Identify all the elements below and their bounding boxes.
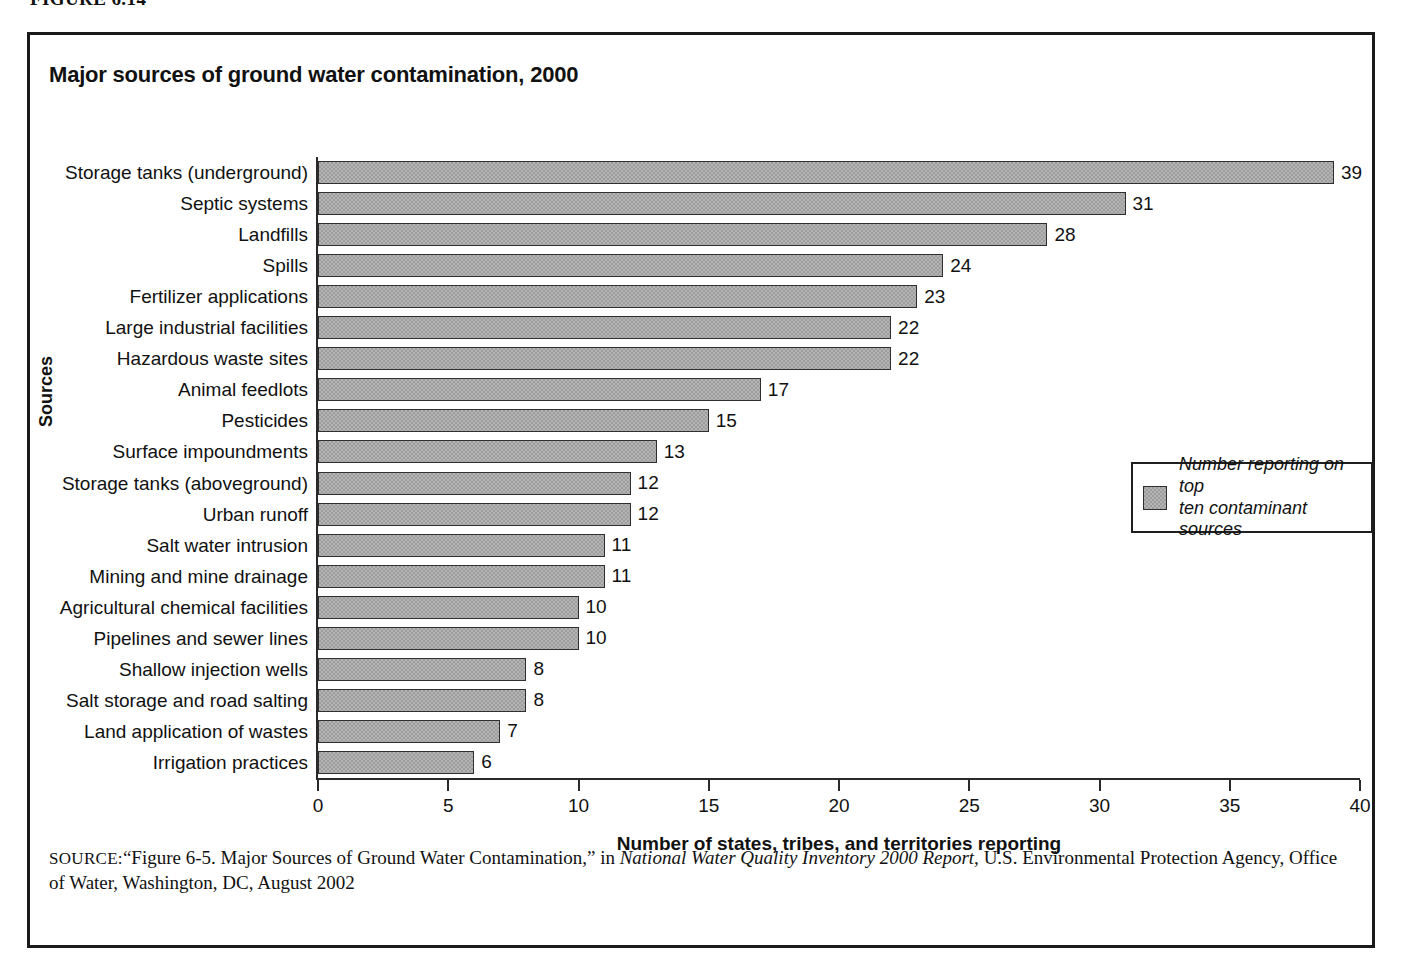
category-label: Large industrial facilities xyxy=(105,312,308,343)
bar-value-label: 10 xyxy=(586,627,607,649)
x-axis-tick xyxy=(447,780,449,791)
category-label: Mining and mine drainage xyxy=(89,561,308,592)
bar-value-label: 6 xyxy=(481,751,492,773)
legend-swatch-icon xyxy=(1143,486,1167,510)
bar-value-label: 10 xyxy=(586,596,607,618)
bar xyxy=(318,378,761,401)
category-label: Agricultural chemical facilities xyxy=(60,592,308,623)
bar xyxy=(318,720,500,743)
bar xyxy=(318,658,526,681)
bar xyxy=(318,440,657,463)
bar xyxy=(318,596,579,619)
bar xyxy=(318,565,605,588)
legend-label-line1: Number reporting on top xyxy=(1179,454,1361,497)
bar-value-label: 8 xyxy=(533,689,544,711)
x-axis-tick-label: 35 xyxy=(1219,795,1240,817)
x-axis-tick-label: 25 xyxy=(959,795,980,817)
legend-label: Number reporting on top ten contaminant … xyxy=(1179,454,1361,540)
x-axis-tick-label: 0 xyxy=(313,795,324,817)
bar xyxy=(318,689,526,712)
bar-row: 7 xyxy=(318,716,518,747)
x-axis-tick-label: 15 xyxy=(698,795,719,817)
bar-row: 22 xyxy=(318,312,919,343)
bar xyxy=(318,316,891,339)
bar xyxy=(318,627,579,650)
x-axis-tick xyxy=(1099,780,1101,791)
bar-row: 8 xyxy=(318,685,544,716)
bar-row: 13 xyxy=(318,436,685,467)
bar-row: 28 xyxy=(318,219,1076,250)
bar-value-label: 31 xyxy=(1133,193,1154,215)
bar-row: 11 xyxy=(318,561,631,592)
x-axis-tick-label: 40 xyxy=(1349,795,1370,817)
category-label: Land application of wastes xyxy=(84,716,308,747)
bar xyxy=(318,503,631,526)
bar-value-label: 8 xyxy=(533,658,544,680)
bar-value-label: 28 xyxy=(1054,224,1075,246)
source-note: SOURCE:“Figure 6-5. Major Sources of Gro… xyxy=(49,845,1354,896)
bar-value-label: 12 xyxy=(638,472,659,494)
bar-value-label: 22 xyxy=(898,317,919,339)
bar xyxy=(318,192,1126,215)
category-label: Urban runoff xyxy=(203,499,308,530)
bar-row: 10 xyxy=(318,592,607,623)
bar-value-label: 39 xyxy=(1341,162,1362,184)
category-label: Storage tanks (underground) xyxy=(65,157,308,188)
bar xyxy=(318,751,474,774)
x-axis-tick-label: 30 xyxy=(1089,795,1110,817)
x-axis-tick xyxy=(968,780,970,791)
bar-value-label: 12 xyxy=(638,503,659,525)
bar-row: 10 xyxy=(318,623,607,654)
x-axis-tick-label: 20 xyxy=(828,795,849,817)
bar xyxy=(318,161,1334,184)
bar-value-label: 17 xyxy=(768,379,789,401)
x-axis-tick xyxy=(708,780,710,791)
source-italic-title: National Water Quality Inventory 2000 Re… xyxy=(620,847,979,868)
category-label: Shallow injection wells xyxy=(119,654,308,685)
x-axis-tick-label: 5 xyxy=(443,795,454,817)
bar-value-label: 11 xyxy=(612,534,632,556)
bar-row: 6 xyxy=(318,747,492,778)
source-keyword: SOURCE: xyxy=(49,849,123,868)
category-label: Animal feedlots xyxy=(178,374,308,405)
bar-row: 22 xyxy=(318,343,919,374)
x-axis-tick xyxy=(1359,780,1361,791)
legend-label-line2: ten contaminant sources xyxy=(1179,498,1361,541)
category-label: Pesticides xyxy=(221,405,308,436)
bar-row: 39 xyxy=(318,157,1362,188)
bar-row: 15 xyxy=(318,405,737,436)
chart-title: Major sources of ground water contaminat… xyxy=(49,62,578,88)
x-axis-tick-label: 10 xyxy=(568,795,589,817)
figure-frame: Major sources of ground water contaminat… xyxy=(27,32,1375,948)
bar-row: 11 xyxy=(318,530,631,561)
bar-value-label: 11 xyxy=(612,565,632,587)
bar-value-label: 13 xyxy=(664,441,685,463)
bar xyxy=(318,254,943,277)
bar-row: 12 xyxy=(318,499,659,530)
x-axis-tick xyxy=(317,780,319,791)
bar-row: 31 xyxy=(318,188,1154,219)
bar xyxy=(318,223,1047,246)
category-label: Fertilizer applications xyxy=(130,281,308,312)
category-label: Surface impoundments xyxy=(113,436,308,467)
bar-value-label: 7 xyxy=(507,720,518,742)
source-text-part1: “Figure 6-5. Major Sources of Ground Wat… xyxy=(123,847,620,868)
category-label: Septic systems xyxy=(180,188,308,219)
bar xyxy=(318,285,917,308)
bar-value-label: 15 xyxy=(716,410,737,432)
bar-row: 8 xyxy=(318,654,544,685)
category-label: Landfills xyxy=(238,219,308,250)
bar xyxy=(318,472,631,495)
bar-row: 24 xyxy=(318,250,971,281)
bar-value-label: 22 xyxy=(898,348,919,370)
category-axis-labels: Storage tanks (underground)Septic system… xyxy=(30,157,308,778)
bar-value-label: 23 xyxy=(924,286,945,308)
category-label: Irrigation practices xyxy=(153,747,308,778)
category-label: Storage tanks (aboveground) xyxy=(62,468,308,499)
category-label: Salt storage and road salting xyxy=(66,685,308,716)
bar-value-label: 24 xyxy=(950,255,971,277)
legend: Number reporting on top ten contaminant … xyxy=(1131,462,1373,533)
category-label: Hazardous waste sites xyxy=(117,343,308,374)
bar-row: 12 xyxy=(318,468,659,499)
category-label: Spills xyxy=(263,250,308,281)
